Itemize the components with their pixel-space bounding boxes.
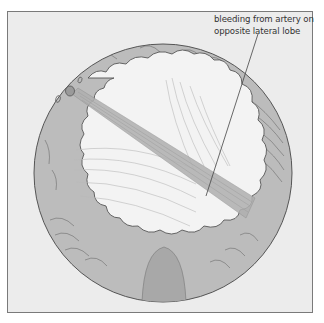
annotation-line-1: bleeding from artery on: [214, 14, 320, 26]
annotation-line-2: opposite lateral lobe: [214, 26, 320, 38]
endoscopic-view-illustration: [0, 0, 324, 323]
annotation-label-bleeding-artery: bleeding from artery on opposite lateral…: [214, 14, 320, 37]
bleeding-artery-opening: [66, 86, 75, 96]
